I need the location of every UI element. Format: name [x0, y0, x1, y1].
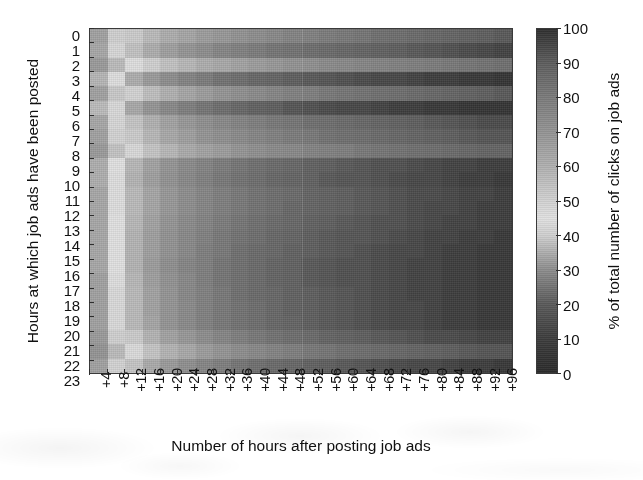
heatmap-cell [477, 172, 495, 186]
heatmap-cell [301, 101, 319, 115]
colorbar-tick-mark [556, 166, 561, 167]
heatmap-cell [125, 316, 143, 330]
heatmap-cell [178, 230, 196, 244]
heatmap-cell [459, 72, 477, 86]
heatmap-cell [442, 187, 460, 201]
heatmap-cell [389, 273, 407, 287]
heatmap-cell [354, 215, 372, 229]
heatmap-cell [266, 86, 284, 100]
heatmap-cell [319, 29, 337, 43]
heatmap-cell [283, 273, 301, 287]
heatmap-cell [319, 72, 337, 86]
heatmap-cell [108, 43, 126, 57]
heatmap-cell [389, 72, 407, 86]
heatmap-cell [178, 316, 196, 330]
heatmap-cell [424, 58, 442, 72]
heatmap-cell [143, 101, 161, 115]
heatmap-cell [354, 86, 372, 100]
x-axis-tick-label: +56 [319, 378, 337, 422]
heatmap-cell [442, 316, 460, 330]
heatmap-cell [301, 43, 319, 57]
heatmap-cell [178, 86, 196, 100]
heatmap-cell [125, 58, 143, 72]
heatmap-cell [301, 244, 319, 258]
heatmap-cell [336, 201, 354, 215]
heatmap-cell [248, 316, 266, 330]
heatmap-cell [494, 86, 512, 100]
heatmap-cell [319, 58, 337, 72]
heatmap-cell [213, 230, 231, 244]
heatmap-cell [494, 29, 512, 43]
x-axis-tick-label: +76 [407, 378, 425, 422]
heatmap-cell [336, 29, 354, 43]
heatmap-cell [160, 344, 178, 358]
heatmap-cell [319, 230, 337, 244]
heatmap-cell [196, 244, 214, 258]
heatmap-cell [301, 115, 319, 129]
heatmap-cell [424, 115, 442, 129]
heatmap-cell [266, 29, 284, 43]
heatmap-cell [143, 301, 161, 315]
heatmap-cell [248, 86, 266, 100]
x-axis-tick-label: +60 [336, 378, 354, 422]
heatmap-cell [160, 172, 178, 186]
heatmap-cell [424, 244, 442, 258]
y-axis-tick-label: 22 [47, 358, 85, 373]
heatmap-cell [424, 316, 442, 330]
heatmap-cell [407, 258, 425, 272]
heatmap-cell [266, 144, 284, 158]
x-axis-tick-label: +20 [160, 378, 178, 422]
heatmap-cell [301, 172, 319, 186]
heatmap-cell [266, 344, 284, 358]
heatmap-cell [266, 330, 284, 344]
heatmap-cell [108, 144, 126, 158]
x-axis-tick-mark [89, 368, 107, 375]
heatmap-cell [442, 144, 460, 158]
heatmap-cell [283, 144, 301, 158]
heatmap-cell [442, 43, 460, 57]
y-axis-tick-labels: 01234567891011121314151617181920212223 [47, 28, 85, 374]
colorbar-tick-mark [556, 28, 561, 29]
x-axis-tick-mark [124, 368, 142, 375]
heatmap-cell [407, 115, 425, 129]
heatmap-cell [125, 86, 143, 100]
heatmap-cell [231, 273, 249, 287]
heatmap-cell [354, 172, 372, 186]
heatmap-cell [213, 301, 231, 315]
heatmap-cell [459, 43, 477, 57]
colorbar-tick-label: 80 [563, 89, 580, 106]
x-axis-tick-label: +40 [248, 378, 266, 422]
heatmap-cell [407, 287, 425, 301]
heatmap-cell [213, 187, 231, 201]
heatmap-cell [301, 330, 319, 344]
heatmap-cell [196, 72, 214, 86]
heatmap-plot-area [89, 28, 513, 374]
heatmap-cell [108, 301, 126, 315]
heatmap-cell [143, 316, 161, 330]
heatmap-cell [248, 129, 266, 143]
heatmap-cell [213, 86, 231, 100]
colorbar-tick-mark [556, 63, 561, 64]
y-axis-tick-mark [89, 86, 96, 100]
heatmap-cell [283, 258, 301, 272]
heatmap-cell [424, 29, 442, 43]
heatmap-cell [389, 230, 407, 244]
heatmap-cell [477, 115, 495, 129]
heatmap-cell [442, 86, 460, 100]
heatmap-cell [477, 201, 495, 215]
heatmap-cell [459, 244, 477, 258]
y-axis-tick-label: 13 [47, 223, 85, 238]
colorbar-tick-mark [556, 235, 561, 236]
heatmap-cell [319, 101, 337, 115]
heatmap-cell [125, 344, 143, 358]
heatmap-cell [494, 144, 512, 158]
heatmap-cell [424, 230, 442, 244]
heatmap-cell [301, 301, 319, 315]
heatmap-cell [407, 316, 425, 330]
heatmap-cell [178, 244, 196, 258]
heatmap-cell [248, 287, 266, 301]
y-axis-tick-label: 4 [47, 88, 85, 103]
heatmap-cell [283, 316, 301, 330]
y-axis-tick-mark [89, 129, 96, 143]
heatmap-cell [371, 144, 389, 158]
